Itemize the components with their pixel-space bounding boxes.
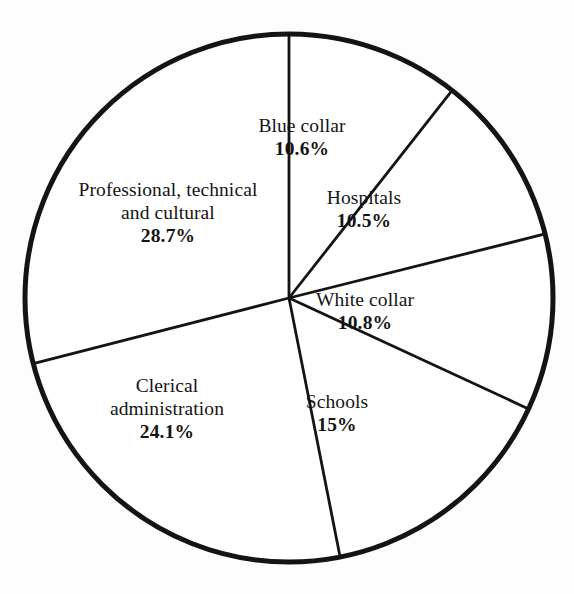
slice-label-text-clerical-administration-1: administration xyxy=(110,397,224,420)
slice-value-professional-technical-cultural: 28.7% xyxy=(79,224,258,247)
slice-label-blue-collar: Blue collar10.6% xyxy=(258,114,345,160)
slice-label-text-white-collar-0: White collar xyxy=(316,288,414,311)
pie-chart-svg xyxy=(0,0,574,594)
slice-label-text-hospitals-0: Hospitals xyxy=(327,186,402,209)
slice-value-hospitals: 10.5% xyxy=(327,209,402,232)
slice-label-text-professional-technical-cultural-0: Professional, technical xyxy=(79,178,258,201)
slice-label-professional-technical-cultural: Professional, technicaland cultural28.7% xyxy=(79,178,258,247)
slice-label-text-blue-collar-0: Blue collar xyxy=(258,114,345,137)
slice-label-clerical-administration: Clericaladministration24.1% xyxy=(110,374,224,443)
slice-label-text-professional-technical-cultural-1: and cultural xyxy=(79,201,258,224)
slice-value-white-collar: 10.8% xyxy=(316,311,414,334)
slice-label-text-schools-0: Schools xyxy=(306,390,368,413)
pie-chart: Blue collar10.6%Hospitals10.5%White coll… xyxy=(0,0,574,594)
slice-label-white-collar: White collar10.8% xyxy=(316,288,414,334)
slice-value-clerical-administration: 24.1% xyxy=(110,420,224,443)
slice-label-schools: Schools15% xyxy=(306,390,368,436)
slice-value-schools: 15% xyxy=(306,413,368,436)
slice-value-blue-collar: 10.6% xyxy=(258,137,345,160)
slice-label-hospitals: Hospitals10.5% xyxy=(327,186,402,232)
slice-label-text-clerical-administration-0: Clerical xyxy=(110,374,224,397)
